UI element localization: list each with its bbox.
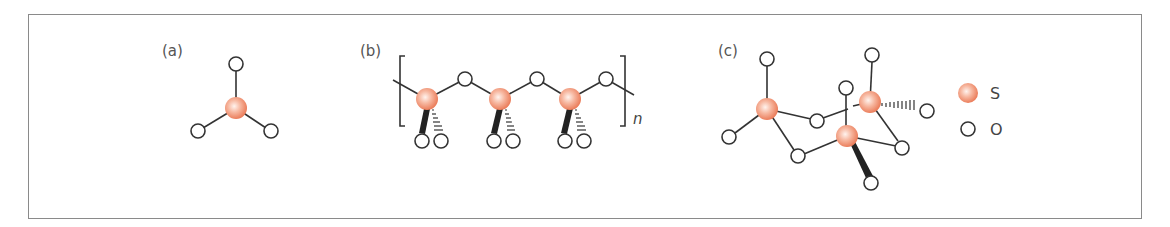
legend-item-sulfur: S: [958, 83, 1000, 103]
sulfur-swatch-icon: [958, 83, 978, 103]
panel-b: (b) n: [360, 42, 643, 148]
legend-label-o: O: [990, 120, 1003, 139]
oxygen-swatch-icon: [961, 122, 975, 136]
hashed-bond: [882, 100, 914, 110]
oxygen-atoms: [415, 72, 613, 148]
legend: S O: [958, 83, 1003, 139]
panel-a-label: (a): [162, 42, 183, 60]
legend-item-oxygen: O: [961, 120, 1003, 139]
sulfur-oxide-structures-diagram: (a) (b) n: [0, 0, 1170, 227]
panel-c-label: (c): [718, 42, 738, 60]
panel-a: (a): [162, 42, 278, 138]
legend-label-s: S: [990, 84, 1000, 103]
panel-c: (c): [718, 42, 934, 190]
sulfur-atom: [225, 97, 247, 119]
repeat-subscript-n: n: [633, 110, 643, 128]
panel-b-label: (b): [360, 42, 381, 60]
